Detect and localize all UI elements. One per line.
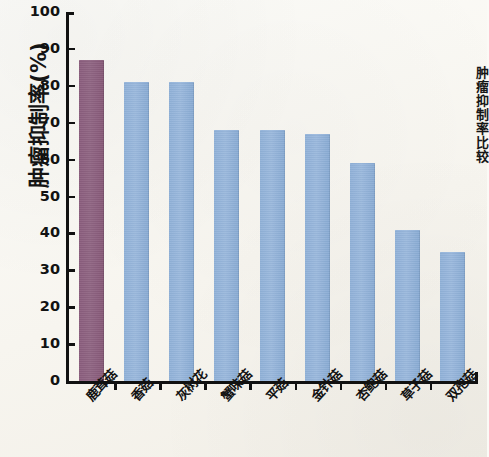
y-tick-mark (69, 122, 75, 125)
side-caption: 肿瘤抑制率比较 (467, 66, 489, 176)
x-tick-mark (114, 384, 117, 390)
y-tick-label: 80 (26, 77, 60, 93)
bar-4 (214, 130, 239, 381)
y-tick-mark (69, 269, 75, 272)
y-tick-label: 0 (26, 372, 60, 388)
y-tick-label: 40 (26, 224, 60, 240)
bar-1 (79, 60, 104, 381)
y-tick-mark (69, 232, 75, 235)
bar-8 (395, 230, 420, 381)
bar-5 (260, 130, 285, 381)
x-tick-mark (385, 384, 388, 390)
y-tick-label: 10 (26, 335, 60, 351)
bar-3 (169, 82, 194, 381)
x-tick-mark (295, 384, 298, 390)
bar-9 (440, 252, 465, 381)
y-tick-label: 20 (26, 298, 60, 314)
x-tick-mark (249, 384, 252, 390)
y-tick-mark (69, 85, 75, 88)
x-tick-mark (204, 384, 207, 390)
y-tick-label: 90 (26, 40, 60, 56)
y-tick-label: 60 (26, 151, 60, 167)
x-tick-mark (430, 384, 433, 390)
y-tick-mark (69, 159, 75, 162)
x-tick-mark (159, 384, 162, 390)
bar-6 (305, 134, 330, 381)
y-tick-label: 30 (26, 261, 60, 277)
y-tick-mark (69, 343, 75, 346)
y-axis-tick-labels: 1009080706050403020100 (24, 0, 60, 457)
bar-7 (350, 163, 375, 381)
y-tick-label: 50 (26, 188, 60, 204)
y-tick-mark (69, 306, 75, 309)
y-tick-mark (69, 196, 75, 199)
bar-2 (124, 82, 149, 381)
y-tick-mark (69, 48, 75, 51)
y-tick-label: 100 (26, 3, 60, 19)
plot-area (69, 12, 478, 381)
y-tick-label: 70 (26, 114, 60, 130)
x-tick-mark (340, 384, 343, 390)
